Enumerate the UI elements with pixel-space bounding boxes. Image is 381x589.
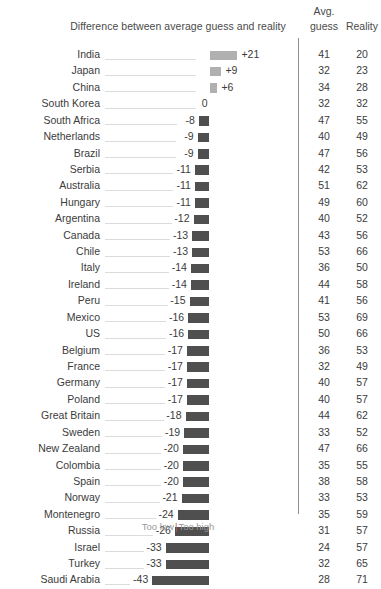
- cell-avg-guess: 28: [303, 573, 345, 586]
- bar-negative: [188, 330, 209, 340]
- cell-reality: 49: [342, 360, 381, 373]
- cell-reality: 56: [342, 229, 381, 242]
- cell-avg-guess: 32: [303, 64, 345, 77]
- country-label: France: [0, 360, 100, 373]
- cell-reality: 53: [342, 344, 381, 357]
- cell-reality: 56: [342, 147, 381, 160]
- bar-value-label: -11: [155, 196, 191, 209]
- country-label: Australia: [0, 179, 100, 192]
- country-label: Norway: [0, 491, 100, 504]
- country-label: Argentina: [0, 212, 100, 225]
- bar-value-label: -15: [150, 294, 186, 307]
- table-row: Japan+93223: [0, 64, 381, 80]
- chart-legend: Too low|Too high: [62, 521, 294, 532]
- table-row: Spain-203858: [0, 475, 381, 491]
- bar-negative: [199, 116, 210, 126]
- cell-avg-guess: 32: [303, 97, 345, 110]
- bar-negative: [195, 198, 210, 208]
- bar-negative: [187, 379, 210, 389]
- cell-reality: 53: [342, 491, 381, 504]
- bar-value-label: 0: [172, 97, 208, 110]
- cell-reality: 20: [342, 48, 381, 61]
- cell-avg-guess: 47: [303, 114, 345, 127]
- cell-avg-guess: 44: [303, 278, 345, 291]
- cell-reality: 62: [342, 409, 381, 422]
- country-label: New Zealand: [0, 442, 100, 455]
- cell-reality: 55: [342, 459, 381, 472]
- country-label: Ireland: [0, 278, 100, 291]
- country-label: Colombia: [0, 459, 100, 472]
- cell-avg-guess: 51: [303, 179, 345, 192]
- cell-avg-guess: 31: [303, 524, 345, 537]
- country-label: Saudi Arabia: [0, 573, 100, 586]
- table-row: Poland-174057: [0, 393, 381, 409]
- legend-too-high: Too high: [178, 521, 214, 532]
- bar-negative: [187, 346, 210, 356]
- bar-negative: [183, 461, 210, 471]
- cell-reality: 58: [342, 278, 381, 291]
- country-label: India: [0, 48, 100, 61]
- country-label: Turkey: [0, 557, 100, 570]
- leader-line: [105, 75, 196, 76]
- country-label: Chile: [0, 245, 100, 258]
- bar-value-label: -17: [147, 360, 183, 373]
- cell-reality: 55: [342, 114, 381, 127]
- cell-avg-guess: 32: [303, 360, 345, 373]
- table-row: Great Britain-184462: [0, 409, 381, 425]
- bar-value-label: -20: [143, 459, 179, 472]
- bar-value-label: -19: [144, 426, 180, 439]
- cell-avg-guess: 43: [303, 229, 345, 242]
- bar-value-label: -11: [155, 179, 191, 192]
- bar-negative: [191, 280, 210, 290]
- cell-avg-guess: 53: [303, 245, 345, 258]
- country-label: South Africa: [0, 114, 100, 127]
- table-row: Belgium-173653: [0, 344, 381, 360]
- bar-value-label: +6: [221, 81, 257, 94]
- table-row: Australia-115162: [0, 179, 381, 195]
- bar-value-label: -14: [151, 278, 187, 291]
- bar-negative: [166, 543, 210, 553]
- cell-avg-guess: 36: [303, 344, 345, 357]
- bar-negative: [198, 133, 210, 143]
- table-row: Brazil-94756: [0, 147, 381, 163]
- bar-value-label: -17: [147, 344, 183, 357]
- cell-avg-guess: 36: [303, 261, 345, 274]
- bar-negative: [195, 182, 210, 192]
- cell-avg-guess: 42: [303, 163, 345, 176]
- country-label: Canada: [0, 229, 100, 242]
- bar-value-label: -13: [152, 245, 188, 258]
- country-label: Netherlands: [0, 130, 100, 143]
- bar-negative: [187, 362, 210, 372]
- bar-value-label: -16: [148, 327, 184, 340]
- table-row: Argentina-124052: [0, 212, 381, 228]
- bar-value-label: -11: [155, 163, 191, 176]
- bar-value-label: -18: [146, 409, 182, 422]
- cell-avg-guess: 47: [303, 442, 345, 455]
- column-header-avg-guess: guess: [303, 20, 345, 32]
- bar-value-label: -17: [147, 393, 183, 406]
- cell-reality: 56: [342, 294, 381, 307]
- legend-too-low: Too low: [142, 521, 174, 532]
- bar-negative: [183, 445, 210, 455]
- cell-reality: 66: [342, 327, 381, 340]
- cell-reality: 53: [342, 163, 381, 176]
- country-label: China: [0, 81, 100, 94]
- cell-reality: 49: [342, 130, 381, 143]
- cell-avg-guess: 53: [303, 311, 345, 324]
- cell-avg-guess: 41: [303, 294, 345, 307]
- leader-line: [105, 59, 196, 60]
- bar-value-label: -20: [143, 442, 179, 455]
- country-label: Poland: [0, 393, 100, 406]
- bar-positive: [210, 51, 238, 61]
- country-label: South Korea: [0, 97, 100, 110]
- table-row: France-173249: [0, 360, 381, 376]
- table-row: Hungary-114960: [0, 196, 381, 212]
- bar-negative: [188, 313, 209, 323]
- bar-value-label: +21: [241, 48, 277, 61]
- country-label: Peru: [0, 294, 100, 307]
- table-row: Netherlands-94049: [0, 130, 381, 146]
- cell-reality: 65: [342, 557, 381, 570]
- bar-negative: [192, 248, 209, 258]
- cell-reality: 32: [342, 97, 381, 110]
